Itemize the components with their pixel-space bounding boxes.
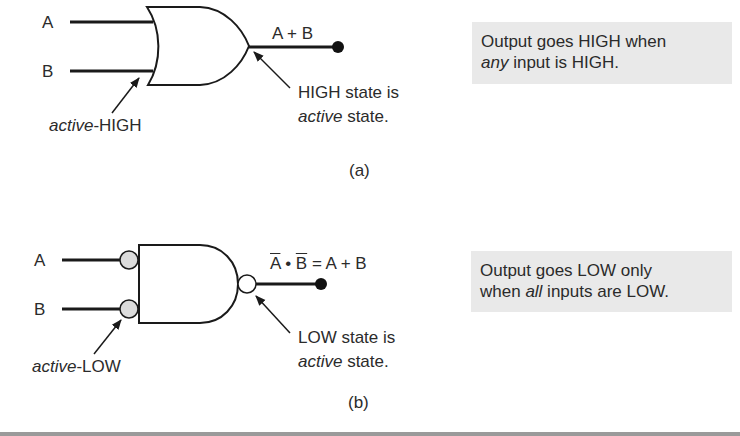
nand-gate-body [139,245,238,323]
active-high-input-label: active-HIGH [49,116,142,136]
input-b-label: B [42,62,53,82]
active-low-input-arrow [94,320,121,354]
bottom-rule [0,432,740,436]
active-low-output-label-line2: active state. [298,352,389,372]
input-a-label: A [42,13,53,33]
output-terminal-dot [315,278,327,290]
input-a-bubble [120,251,138,269]
input-b-label: B [34,300,45,320]
active-low-input-label: active-LOW [32,357,121,377]
active-low-output-arrow [256,296,290,333]
description-note-b: Output goes LOW only when all inputs are… [471,251,732,312]
or-gate-body [147,7,249,85]
active-low-output-label-line1: LOW state is [298,328,395,348]
caption-a: (a) [349,161,370,181]
input-a-label: A [34,251,45,271]
active-high-output-label-line1: HIGH state is [298,83,399,103]
output-bubble [238,275,256,293]
output-terminal-dot [332,41,344,53]
caption-b: (b) [348,393,369,413]
active-high-input-arrow [112,78,139,113]
active-high-output-arrow [254,52,290,88]
input-b-bubble [120,300,138,318]
output-expression: A • B = A + B [270,254,367,274]
output-expression: A + B [272,24,313,44]
description-note-a: Output goes HIGH when any input is HIGH. [472,22,732,84]
active-high-output-label-line2: active state. [298,107,389,127]
